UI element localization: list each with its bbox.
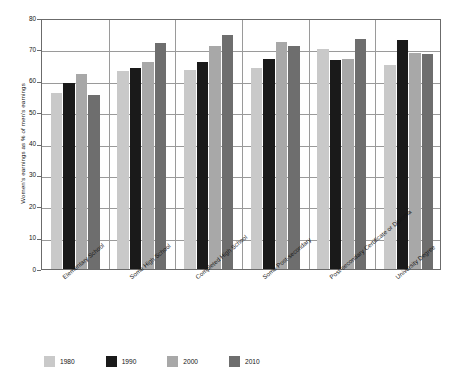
bar-1990-some-high-school (130, 68, 142, 269)
bar-1980-post-secondary-certificate-or-diploma (317, 49, 329, 269)
group-separator (375, 20, 376, 269)
bar-2010-university-degree (422, 54, 434, 269)
y-axis-tick-label: 40 (10, 141, 36, 147)
bar-2000-post-secondary-certificate-or-diploma (342, 59, 354, 269)
bar-group (109, 20, 176, 269)
y-axis-tick-label: 20 (10, 204, 36, 210)
bar-1980-completed-high-school (184, 70, 196, 269)
bar-2000-completed-high-school (209, 46, 221, 269)
group-separator (309, 20, 310, 269)
bar-2000-some-high-school (142, 62, 154, 269)
bar-2010-completed-high-school (222, 35, 234, 269)
legend-label-2010: 2010 (245, 358, 260, 365)
legend-label-2000: 2000 (183, 358, 198, 365)
y-axis-tick-label: 70 (10, 47, 36, 53)
legend-item-2010: 2010 (229, 356, 260, 367)
bar-group (175, 20, 242, 269)
bar-group (309, 20, 376, 269)
bar-group (42, 20, 109, 269)
y-axis-tick-label: 30 (10, 172, 36, 178)
bar-1990-some-post-secondary (263, 59, 275, 269)
legend-item-1990: 1990 (106, 356, 137, 367)
bar-1980-university-degree (384, 65, 396, 269)
bar-2010-some-post-secondary (288, 46, 300, 269)
bar-2000-some-post-secondary (276, 42, 288, 269)
bar-1980-elementary-school (51, 93, 63, 269)
legend-swatch-1990 (106, 356, 117, 367)
legend-label-1980: 1980 (60, 358, 75, 365)
bar-1980-some-post-secondary (251, 68, 263, 269)
legend-swatch-2010 (229, 356, 240, 367)
bar-1990-completed-high-school (197, 62, 209, 269)
chart-legend: 1980199020002010 (44, 356, 291, 367)
legend-swatch-2000 (167, 356, 178, 367)
bar-chart: Women's earnings as % of men's earnings … (0, 0, 454, 381)
bar-2010-some-high-school (155, 43, 167, 269)
y-axis-tick-label: 80 (10, 16, 36, 22)
bar-1980-some-high-school (117, 71, 129, 269)
legend-item-1980: 1980 (44, 356, 75, 367)
y-axis-tick-label: 0 (10, 267, 36, 273)
legend-label-1990: 1990 (122, 358, 137, 365)
bar-1990-elementary-school (63, 83, 75, 269)
y-axis-tick-label: 60 (10, 78, 36, 84)
bar-1990-university-degree (397, 40, 409, 269)
bar-2000-university-degree (409, 53, 421, 269)
y-axis-tick-label: 50 (10, 110, 36, 116)
bar-2000-elementary-school (76, 74, 88, 269)
y-axis-tick-label: 10 (10, 235, 36, 241)
legend-swatch-1980 (44, 356, 55, 367)
legend-item-2000: 2000 (167, 356, 198, 367)
group-separator (175, 20, 176, 269)
group-separator (242, 20, 243, 269)
bar-1990-post-secondary-certificate-or-diploma (330, 60, 342, 269)
y-axis-tick-mark (37, 270, 41, 271)
bar-2010-post-secondary-certificate-or-diploma (355, 39, 367, 269)
group-separator (109, 20, 110, 269)
bar-group (242, 20, 309, 269)
